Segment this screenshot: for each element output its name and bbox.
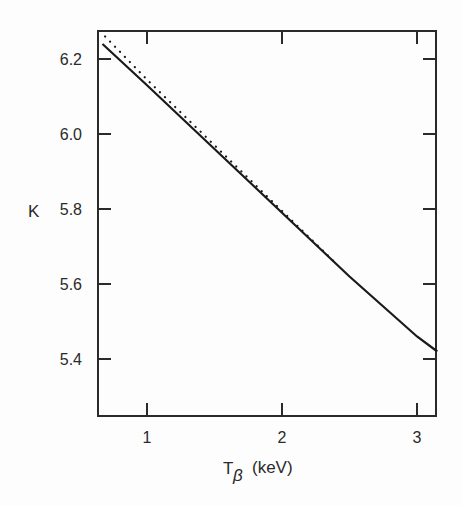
chart: 5.45.65.86.06.2 123 K T β (keV) xyxy=(0,0,462,505)
y-axis-ticks: 5.45.65.86.06.2 xyxy=(60,51,436,368)
y-tick-label: 6.0 xyxy=(60,126,82,143)
plot-frame xyxy=(98,31,436,416)
y-axis-label: K xyxy=(28,202,40,221)
dotted-line xyxy=(105,37,336,264)
x-tick-label: 3 xyxy=(413,429,422,446)
x-axis-label-unit: (keV) xyxy=(252,458,293,477)
solid-line xyxy=(103,44,438,352)
y-tick-label: 5.4 xyxy=(60,351,82,368)
y-tick-label: 5.6 xyxy=(60,276,82,293)
x-axis-label-main: T xyxy=(223,459,233,478)
x-tick-label: 1 xyxy=(143,429,152,446)
x-axis-label-sub: β xyxy=(232,466,243,485)
y-tick-label: 6.2 xyxy=(60,51,82,68)
data-series xyxy=(103,37,438,352)
y-tick-label: 5.8 xyxy=(60,201,82,218)
x-tick-label: 2 xyxy=(278,429,287,446)
x-axis-label: T β (keV) xyxy=(223,458,293,485)
x-axis-ticks: 123 xyxy=(143,31,422,446)
